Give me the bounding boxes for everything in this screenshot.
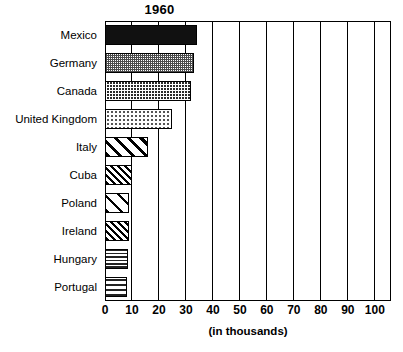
category-label-mexico: Mexico	[61, 29, 97, 41]
x-tick-0: 0	[90, 303, 120, 317]
x-tick-100: 100	[360, 303, 390, 317]
x-tick-70: 70	[279, 303, 309, 317]
category-label-italy: Italy	[76, 141, 97, 153]
x-tick-40: 40	[198, 303, 228, 317]
category-label-germany: Germany	[50, 57, 97, 69]
bar-cuba	[105, 165, 132, 185]
category-label-portugal: Portugal	[54, 281, 97, 293]
category-label-ireland: Ireland	[62, 225, 97, 237]
bar-poland	[105, 193, 129, 213]
chart-title: 1960	[0, 2, 403, 17]
category-label-poland: Poland	[61, 197, 97, 209]
bar-ireland	[105, 221, 129, 241]
category-label-cuba: Cuba	[70, 169, 98, 181]
bar-italy	[105, 137, 148, 157]
x-tick-20: 20	[144, 303, 174, 317]
x-tick-10: 10	[117, 303, 147, 317]
x-tick-50: 50	[225, 303, 255, 317]
bar-hungary	[105, 249, 128, 269]
bars-layer	[105, 21, 391, 301]
bar-germany	[105, 53, 194, 73]
x-tick-90: 90	[333, 303, 363, 317]
x-tick-30: 30	[171, 303, 201, 317]
category-axis-labels: MexicoGermanyCanadaUnited KingdomItalyCu…	[0, 21, 101, 301]
x-axis-tick-labels: 0102030405060708090100	[0, 303, 403, 323]
bar-portugal	[105, 277, 127, 297]
bar-chart: 1960 MexicoGermanyCanadaUnited KingdomIt…	[0, 0, 403, 352]
chart-title-text: 1960	[144, 2, 174, 17]
category-label-hungary: Hungary	[54, 253, 97, 265]
x-tick-60: 60	[252, 303, 282, 317]
x-axis-caption: (in thousands)	[105, 325, 391, 337]
bar-canada	[105, 81, 191, 101]
x-tick-80: 80	[306, 303, 336, 317]
category-label-canada: Canada	[57, 85, 97, 97]
category-label-united-kingdom: United Kingdom	[15, 113, 97, 125]
bar-united-kingdom	[105, 109, 172, 129]
bar-mexico	[105, 25, 197, 45]
